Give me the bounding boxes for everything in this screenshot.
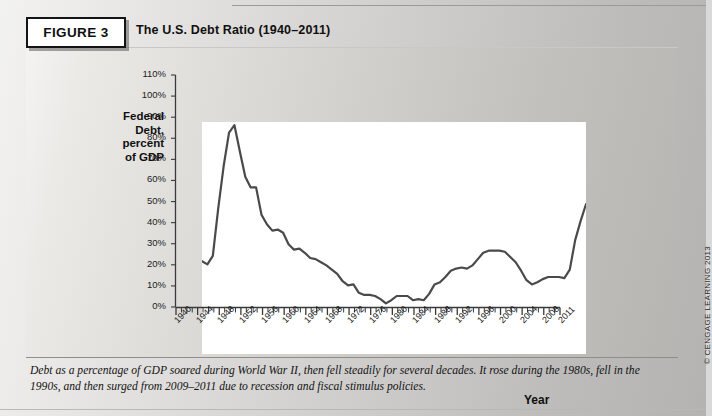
caption-divider — [26, 357, 678, 358]
y-axis-tick-label: 60% — [126, 173, 166, 184]
copyright-notice: © CENGAGE LEARNING 2013 — [703, 246, 712, 364]
figure-number-box: FIGURE 3 — [26, 17, 126, 48]
figure-number-label: FIGURE 3 — [43, 25, 108, 40]
x-axis-title: Year — [524, 393, 549, 407]
figure-caption: Debt as a percentage of GDP soared durin… — [30, 363, 648, 394]
chart-panel: FederalDebt,percentof GDP 110%100%90%80%… — [26, 47, 678, 357]
top-rule — [232, 5, 706, 6]
y-axis-tick-label: 40% — [126, 216, 166, 227]
y-axis-tick-label: 90% — [126, 110, 166, 121]
y-axis-tick-label: 20% — [126, 258, 166, 269]
y-axis-tick-label: 0% — [126, 300, 166, 311]
y-axis-tick-label: 10% — [126, 279, 166, 290]
figure-title: The U.S. Debt Ratio (1940–2011) — [136, 23, 330, 37]
y-axis-tick-label: 100% — [126, 89, 166, 100]
y-axis-tick-label: 80% — [126, 131, 166, 142]
y-axis-tick-label: 70% — [126, 152, 166, 163]
bottom-rule — [0, 409, 706, 410]
y-axis-tick-label: 110% — [126, 68, 166, 79]
y-axis-tick-label: 50% — [126, 195, 166, 206]
y-axis-tick-label: 30% — [126, 237, 166, 248]
